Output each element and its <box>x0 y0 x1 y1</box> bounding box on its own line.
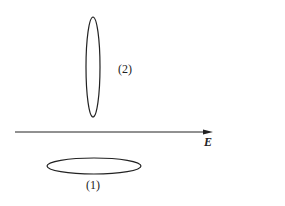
field-axis-label: E <box>204 135 212 150</box>
ellipse-2-vertical <box>86 17 100 117</box>
ellipse-1-horizontal <box>47 158 141 174</box>
ellipse-1-label: (1) <box>86 178 100 193</box>
ellipse-2-label: (2) <box>118 62 132 77</box>
diagram-canvas <box>0 0 285 206</box>
arrowhead-icon <box>203 130 213 135</box>
